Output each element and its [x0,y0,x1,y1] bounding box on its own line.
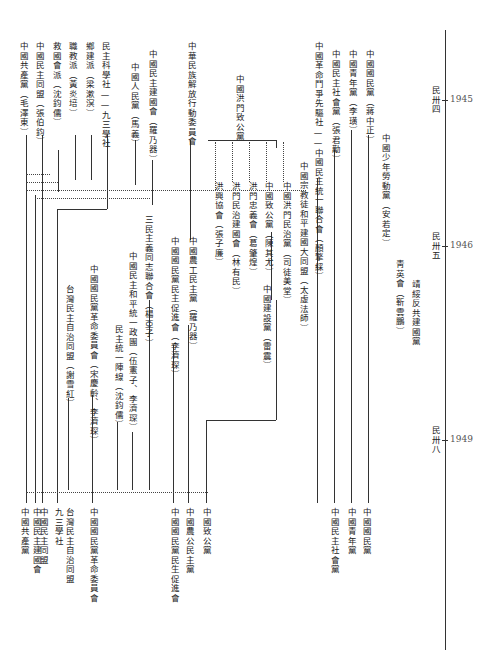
party-label: 中國農工民主黨（羅乃器） [187,237,197,351]
party-label: 洪門民治建國會（林有民） [230,182,240,296]
party-label: 洪興協會（張子廉） [213,182,223,268]
outcome-label: 中國國民黨民生促進會 [169,508,179,603]
party-label: 中華民族解放行動委員會 [186,42,196,147]
party-label: 救國會派（沈鈞儒） [51,42,61,128]
party-label: 中國洪門致公黨 [234,75,244,142]
outcome-label: 中國民主同盟 [38,508,48,565]
year-label: 1945 [450,94,473,104]
outcome-label: 中國共產黨 [19,508,29,556]
outcome-label: 中國國民黨 [361,508,371,556]
party-label: 鄉建派（梁漱溟） [84,42,94,118]
tick-mark [442,246,448,247]
party-label: 台灣民主自治同盟（謝雪紅） [64,285,74,409]
party-label: 靑英會（靳雲鵬） [394,260,404,336]
outcome-label: 中國國民黨革命委員會 [88,508,98,603]
party-label: 民主科學社——九三學社 [100,42,110,149]
outcome-label: 九三學社 [53,508,63,546]
outcome-label: 中國致公黨 [201,508,211,556]
party-label: 中國民主社會黨（張君勱） [330,50,340,164]
timeline-axis [445,30,446,650]
outcome-label: 台灣民主自治同盟 [64,508,74,584]
era-label: 民卅八 [430,426,440,455]
party-label: 中國洪門民治黨（司徒美堂） [281,182,291,306]
party-label: 中國民主建國會（羅乃器） [147,50,157,164]
party-label: 中國少年勞動黨（安若定） [380,134,390,248]
party-label: 中國青年黨（李璜） [347,50,357,136]
party-label: 中國建設黨（雷震） [261,285,271,371]
party-label: 中國共產黨（毛澤東） [18,42,28,137]
year-label: 1949 [450,434,473,444]
party-label: 洪門忠義會（葛肇煌） [247,182,257,277]
outcome-label: 中國農公民主黨 [184,508,194,575]
era-label: 民卅四 [430,86,440,115]
party-label: 中國國民黨革命委員會（宋慶齡、李濟琛） [88,265,98,446]
party-label: 職教派（黃炎培） [67,42,77,118]
party-label: 靖綏反共建國黨 [410,280,420,347]
party-label: 中國民主和平統一政團（伍憲子、李濟琛） [127,252,137,433]
outcome-label: 中國民主社會黨 [329,508,339,575]
party-label: 中國國民黨（蔣中正） [364,50,374,145]
party-label: 中國民主同盟（張伯鈞） [34,42,44,147]
tick-mark [442,100,448,101]
tick-mark [442,440,448,441]
year-label: 1946 [450,240,473,250]
party-label: 中國革命鬥爭先驅社——中國民主統一聯合會（顏擎綵） [313,42,323,282]
party-label: 民主統一陣線（沈鈞儒） [113,325,123,430]
party-label: 中國宗教徒和平建國大同盟（太虛法師） [298,162,308,333]
party-label: 中國國民黨民主促進會（李濟琛） [169,237,179,380]
party-label: 中國人民黨（馬義） [129,63,139,149]
era-label: 民卅五 [430,232,440,261]
outcome-label: 中國青年黨 [346,508,356,556]
party-label: 中國致公黨（陳其尤） [263,182,273,277]
party-label: 三民主義同志聯合會（楊亞子） [143,215,153,348]
